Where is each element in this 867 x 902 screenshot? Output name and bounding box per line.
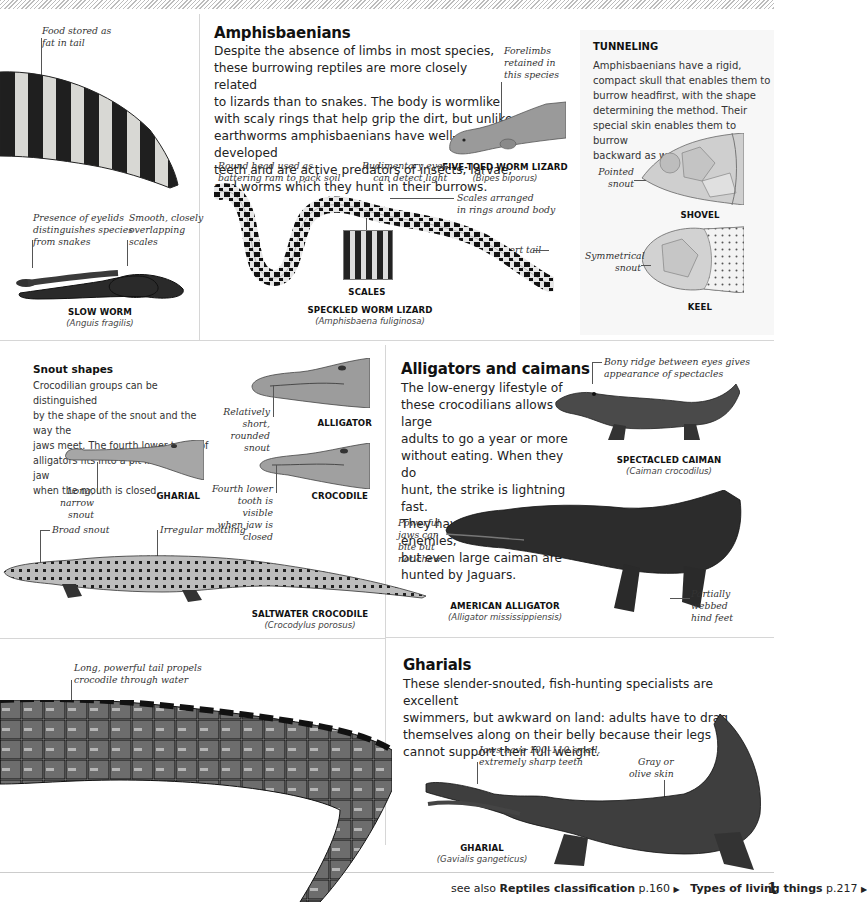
heading-amphisbaenians: Amphisbaenians — [214, 24, 351, 42]
leader-webbed-feet — [670, 598, 690, 599]
note-smooth-scales: Smooth, closely overlapping scales — [129, 212, 203, 248]
divider-horizontal-left — [0, 638, 385, 639]
link-types-of-living-things[interactable]: Types of living things p.217 ▶ — [690, 882, 867, 895]
gharial-caption: GHARIAL — [432, 843, 532, 853]
crocodile-snout-image — [258, 443, 370, 489]
divider-vertical-top — [199, 14, 200, 340]
scales-caption: SCALES — [330, 287, 404, 297]
note-long-powerful-tail: Long, powerful tail propels crocodile th… — [74, 662, 202, 686]
note-eyelids: Presence of eyelids distinguishes specie… — [33, 212, 133, 248]
note-symmetrical-snout: Symmetrical snout — [585, 250, 641, 274]
alligator-label: ALLIGATOR — [300, 418, 372, 428]
shovel-skull-diagram — [640, 133, 744, 205]
note-irregular-mottling: Irregular mottling — [160, 524, 246, 536]
page-number: 1 — [767, 879, 777, 897]
leader-bony-ridge-v — [592, 362, 593, 384]
spectacled-caption: SPECTACLED CAIMAN — [604, 455, 734, 465]
leader-bony-ridge — [592, 362, 602, 363]
five-toed-worm-lizard-image — [446, 100, 566, 160]
link-reptiles-classification[interactable]: Reptiles classification p.160 ▶ — [500, 882, 684, 895]
slow-worm-caption: SLOW WORM — [0, 307, 200, 317]
alligator-snout-image — [250, 358, 370, 408]
gharial-label: GHARIAL — [150, 491, 200, 501]
slow-worm-scientific: (Anguis fragilis) — [0, 318, 200, 328]
spectacled-scientific: (Caiman crocodilus) — [604, 466, 734, 476]
note-forelimbs: Forelimbs retained in this species — [504, 45, 559, 81]
gharial-snout-image — [64, 440, 204, 480]
note-rudimentary-eyes: Rudimentary eyes can detect light — [362, 160, 447, 184]
gharial-scientific: (Gavialis gangeticus) — [432, 854, 532, 864]
heading-alligators-caimans: Alligators and caimans — [401, 360, 590, 378]
note-webbed-feet: Partially webbed hind feet — [691, 588, 733, 624]
note-food-stored: Food stored as fat in tail — [42, 25, 111, 49]
leader-symmetrical-snout — [641, 265, 651, 266]
five-toed-caption: FIVE-TOED WORM LIZARD — [440, 162, 570, 172]
leader-long-narrow — [97, 462, 98, 494]
note-long-narrow: Long, narrow snout — [44, 485, 94, 521]
arrow-right-icon: ▶ — [674, 885, 680, 894]
top-hatch-border — [0, 0, 774, 9]
leader-rudimentary-eyes — [436, 166, 448, 167]
leader-broad-snout — [40, 530, 50, 531]
slow-worm-image — [8, 255, 188, 305]
heading-snout-shapes: Snout shapes — [33, 363, 113, 375]
divider-horizontal-right — [385, 637, 774, 638]
american-alligator-scientific: (Alligator mississippiensis) — [440, 612, 570, 622]
leader-fourth-lower-tooth — [276, 465, 277, 493]
speckled-caption: SPECKLED WORM LIZARD — [300, 305, 440, 315]
footer-see-also: see also Reptiles classification p.160 ▶… — [451, 882, 867, 895]
crocodile-label: CROCODILE — [300, 491, 368, 501]
note-broad-snout: Broad snout — [52, 524, 109, 536]
heading-tunneling: TUNNELING — [593, 41, 658, 52]
heading-gharials: Gharials — [403, 656, 471, 674]
spectacled-caiman-image — [554, 384, 740, 446]
note-round-head: Round head used as battering ram to pack… — [218, 160, 340, 184]
leader-scales-inset — [366, 218, 367, 230]
divider-horizontal-top — [0, 340, 774, 341]
keel-skull-diagram — [642, 225, 744, 293]
banded-tail-image — [0, 60, 180, 190]
note-pointed-snout: Pointed snout — [598, 166, 634, 190]
snout-shapes-body: Crocodilian groups can be distinguished … — [33, 378, 213, 498]
saltwater-caption: SALTWATER CROCODILE — [240, 609, 380, 619]
speckled-scientific: (Amphisbaena fuliginosa) — [300, 316, 440, 326]
shovel-caption: SHOVEL — [660, 210, 740, 220]
saltwater-scientific: (Crocodylus porosus) — [240, 620, 380, 630]
note-bony-ridge: Bony ridge between eyes gives appearance… — [604, 356, 750, 380]
saltwater-crocodile-image — [2, 552, 426, 604]
crocodile-tail-image — [0, 700, 392, 902]
american-alligator-caption: AMERICAN ALLIGATOR — [440, 601, 570, 611]
leader-pointed-snout — [634, 180, 646, 181]
arrow-right-icon: ▶ — [861, 885, 867, 894]
scales-inset — [343, 230, 393, 280]
leader-relatively-short — [273, 385, 274, 417]
keel-caption: KEEL — [660, 302, 740, 312]
